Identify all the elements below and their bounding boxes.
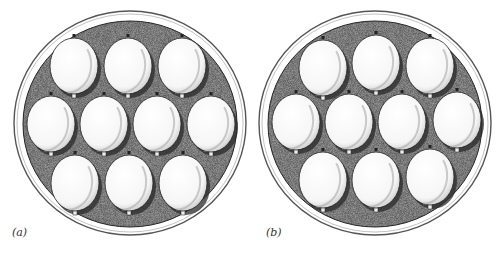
panel-a [14,11,246,235]
panel-b [259,11,491,235]
panel-a-label: (a) [12,226,27,239]
egg-tray-illustration [0,0,504,253]
panel-b-label: (b) [266,226,282,239]
